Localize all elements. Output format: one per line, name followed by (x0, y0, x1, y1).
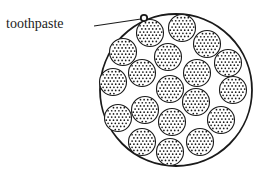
toothpaste-marker (141, 15, 147, 21)
fiber-bundle (220, 77, 247, 104)
fiber-bundle (129, 60, 156, 87)
fiber-bundle (169, 15, 196, 42)
leader-line (94, 19, 141, 26)
fiber-bundle (110, 39, 137, 66)
fiber-bundle (129, 129, 156, 156)
fiber-bundle (105, 105, 132, 132)
fiber-bundle (215, 50, 242, 77)
fiber-bundle (184, 60, 211, 87)
fiber-bundle (157, 139, 184, 166)
fiber-bundle (187, 129, 214, 156)
fiber-bundle (194, 31, 221, 58)
fiber-bundle (159, 109, 186, 136)
fiber-bundle (157, 76, 184, 103)
fiber-bundle (100, 69, 127, 96)
fiber-bundle (155, 44, 182, 71)
fiber-bundle (132, 97, 159, 124)
fiber-bundle (208, 107, 235, 134)
fiber-bundle-diagram (0, 0, 265, 178)
fiber-bundle (183, 89, 210, 116)
fiber-bundle (137, 20, 164, 47)
